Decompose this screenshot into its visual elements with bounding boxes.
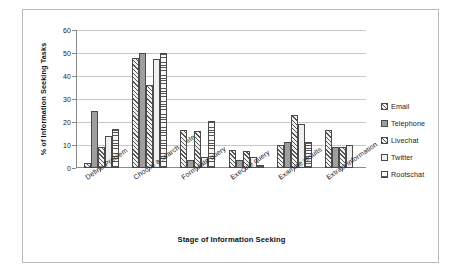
y-axis-tick-label: 50 [63,50,71,57]
y-axis-title: % of Information Seeking Tasks [37,30,49,168]
bar-email-5 [325,130,332,168]
legend-label: Rootschat [391,170,424,179]
legend-item-telephone: Telephone [381,115,461,132]
bar-email-4 [277,145,284,168]
x-axis-title: Stage of Information Seeking [23,235,440,244]
y-axis-line [76,30,77,168]
bar-rootschat-3 [257,165,264,168]
y-axis-tickmark [72,168,76,169]
bar-email-2 [180,130,187,168]
bar-group: Extract information [325,30,360,168]
bar-group-bars [84,30,119,168]
y-axis-tick-label: 0 [67,165,71,172]
plot-inner: 0102030405060Define ProblemChoose a sear… [76,30,366,168]
bar-group: Define Problem [84,30,119,168]
bar-group-bars [132,30,167,168]
y-axis-tick-label: 40 [63,73,71,80]
legend-label: Livechat [391,136,419,145]
chart-legend: EmailTelephoneLivechatTwitterRootschat [381,98,461,183]
bar-group: Formulate query [180,30,215,168]
bar-email-0 [84,163,91,168]
bar-telephone-0 [91,111,98,169]
y-axis-tick-label: 20 [63,119,71,126]
bar-group: Choose a search system [132,30,167,168]
chart-frame: % of Information Seeking Tasks 010203040… [22,9,439,263]
legend-swatch-solid-gray-icon [381,120,388,127]
gridline [76,99,366,100]
bar-group: Execute query [229,30,264,168]
legend-label: Email [391,102,409,111]
legend-swatch-horizontal-stripe-icon [381,171,388,178]
bar-livechat-1 [146,85,153,168]
legend-swatch-diagonal-hatch-icon [381,137,388,144]
legend-item-rootschat: Rootschat [381,166,461,183]
plot-area: 0102030405060Define ProblemChoose a sear… [76,30,366,168]
legend-item-livechat: Livechat [381,132,461,149]
bar-group-bars [277,30,312,168]
bar-telephone-4 [284,142,291,168]
y-axis-tick-label: 30 [63,96,71,103]
legend-item-twitter: Twitter [381,149,461,166]
x-axis-line [76,167,366,168]
legend-label: Telephone [391,119,425,128]
legend-item-email: Email [381,98,461,115]
legend-swatch-solid-light-icon [381,154,388,161]
gridline [76,30,366,31]
gridline [76,53,366,54]
bar-group-bars [180,30,215,168]
bar-group-bars [229,30,264,168]
bar-telephone-1 [139,53,146,168]
gridline [76,76,366,77]
legend-swatch-diagonal-hatch-icon [381,103,388,110]
y-axis-tick-label: 60 [63,27,71,34]
y-axis-tick-label: 10 [63,142,71,149]
bar-group-bars [325,30,360,168]
gridline [76,122,366,123]
bar-email-3 [229,150,236,168]
bar-group: Examine results [277,30,312,168]
legend-label: Twitter [391,153,413,162]
bar-twitter-1 [153,59,160,168]
bar-email-1 [132,58,139,168]
